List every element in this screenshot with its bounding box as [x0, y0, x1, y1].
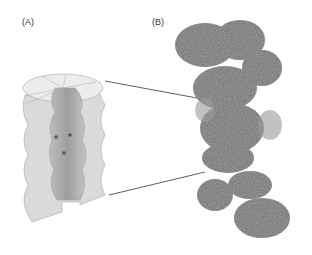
particle-dot: [54, 135, 58, 139]
particle-dot: [68, 133, 72, 137]
cutaway-schematic: [23, 74, 105, 222]
connector-line-bottom: [109, 172, 205, 195]
density-map: [175, 20, 290, 238]
connector-line-top: [105, 81, 197, 98]
particle-dot: [62, 151, 66, 155]
figure-canvas: [0, 0, 312, 255]
